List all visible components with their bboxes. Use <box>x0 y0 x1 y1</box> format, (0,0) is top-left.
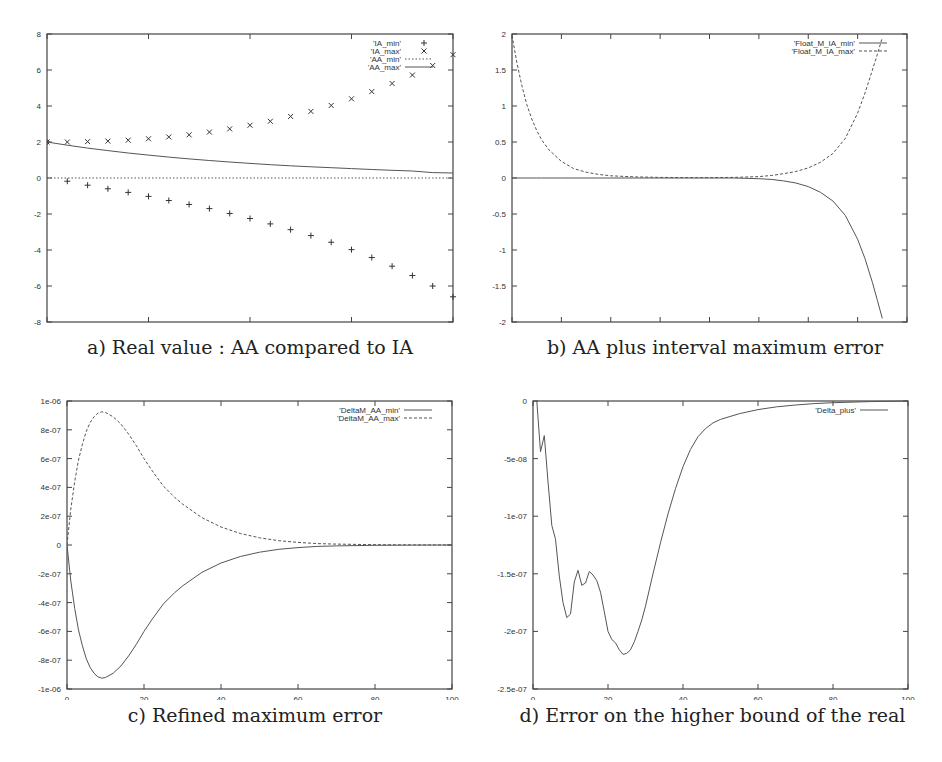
plot-frame <box>533 401 908 689</box>
legend-label: 'AA_max' <box>368 63 402 72</box>
marker-plus <box>85 182 91 188</box>
x-tick-label: 100 <box>752 328 766 330</box>
x-tick-label: 60 <box>656 328 665 330</box>
x-tick-label: 80 <box>829 695 838 700</box>
marker-plus <box>186 201 192 207</box>
series-group <box>67 412 452 678</box>
series-line <box>537 401 908 654</box>
marker-cross <box>288 114 293 119</box>
plot-c: 020406080100-1e-06-8e-07-6e-07-4e-07-2e-… <box>0 380 471 700</box>
x-tick-label: 0 <box>531 695 536 700</box>
marker-cross <box>85 139 90 144</box>
marker-plus <box>288 227 294 233</box>
y-tick-label: 0 <box>37 174 42 183</box>
marker-cross <box>410 73 415 78</box>
y-tick-label: 8 <box>37 30 42 39</box>
y-tick-label: 2 <box>37 138 42 147</box>
y-tick-label: 1e-06 <box>41 397 62 406</box>
series-group <box>512 35 882 318</box>
chart-panel-b: 020406080100120140160-2-1.5-1-0.500.511.… <box>471 0 942 330</box>
chart-panel-a: 05101520-8-6-4-202468'IA_min''IA_max''AA… <box>0 0 471 330</box>
x-tick-label: 40 <box>606 328 615 330</box>
x-tick-label: 5 <box>146 328 151 330</box>
y-tick-label: -1e-07 <box>504 512 528 521</box>
y-tick-label: 0 <box>502 174 507 183</box>
y-tick-label: 8e-07 <box>41 426 62 435</box>
marker-plus <box>105 186 111 192</box>
caption-b: b) AA plus interval maximum error <box>495 336 935 358</box>
marker-cross <box>369 89 374 94</box>
x-tick-label: 60 <box>294 695 303 700</box>
legend-label: 'Delta_plus' <box>815 406 856 415</box>
y-tick-label: 2 <box>502 30 507 39</box>
y-tick-label: -8 <box>34 318 42 327</box>
marker-cross <box>390 81 395 86</box>
y-tick-label: 1.5 <box>495 66 507 75</box>
marker-plus <box>450 294 456 300</box>
legend-label: 'Float_M_IA_max' <box>791 47 855 56</box>
x-tick-label: 20 <box>557 328 566 330</box>
x-tick-label: 0 <box>45 328 50 330</box>
y-tick-label: -2 <box>499 318 507 327</box>
marker-cross <box>126 138 131 143</box>
chart-panel-c: 020406080100-1e-06-8e-07-6e-07-4e-07-2e-… <box>0 380 471 700</box>
y-tick-label: -1.5e-07 <box>497 570 527 579</box>
marker-cross <box>146 136 151 141</box>
marker-cross <box>227 126 232 131</box>
y-tick-label: -6 <box>34 282 42 291</box>
series-line <box>67 412 452 545</box>
plot-a: 05101520-8-6-4-202468'IA_min''IA_max''AA… <box>0 0 471 330</box>
y-tick-label: -2 <box>34 210 42 219</box>
x-tick-label: 80 <box>371 695 380 700</box>
y-tick-label: 6e-07 <box>41 455 62 464</box>
y-tick-label: -2e-07 <box>38 570 62 579</box>
marker-plus <box>64 178 70 184</box>
x-tick-label: 15 <box>347 328 356 330</box>
x-tick-label: 0 <box>510 328 515 330</box>
y-tick-label: -0.5 <box>492 210 506 219</box>
y-tick-label: -1.5 <box>492 282 506 291</box>
marker-cross <box>166 134 171 139</box>
series-line <box>512 35 882 177</box>
marker-plus <box>267 221 273 227</box>
y-tick-label: 0 <box>523 397 528 406</box>
marker-cross <box>349 96 354 101</box>
marker-plus <box>206 206 212 212</box>
marker-plus <box>389 263 395 269</box>
legend-marker-plus <box>421 40 427 46</box>
y-tick-label: -1 <box>499 246 507 255</box>
legend-marker-cross <box>422 49 427 54</box>
y-tick-label: 0.5 <box>495 138 507 147</box>
x-tick-label: 160 <box>900 328 914 330</box>
marker-cross <box>268 119 273 124</box>
marker-plus <box>308 233 314 239</box>
y-tick-label: 1 <box>502 102 507 111</box>
caption-c: c) Refined maximum error <box>40 704 470 726</box>
series-line <box>47 142 453 173</box>
marker-cross <box>65 140 70 145</box>
y-tick-label: 4e-07 <box>41 483 62 492</box>
x-tick-label: 80 <box>705 328 714 330</box>
caption-d: d) Error on the higher bound of the real <box>490 704 935 726</box>
marker-plus <box>146 193 152 199</box>
y-tick-label: -5e-08 <box>504 455 528 464</box>
marker-plus <box>369 255 375 261</box>
marker-cross <box>248 123 253 128</box>
y-tick-label: 0 <box>57 541 62 550</box>
series-line <box>512 178 882 318</box>
y-tick-label: -2e-07 <box>504 627 528 636</box>
x-tick-label: 60 <box>754 695 763 700</box>
x-tick-label: 100 <box>445 695 459 700</box>
x-tick-label: 0 <box>65 695 70 700</box>
y-tick-label: -4 <box>34 246 42 255</box>
marker-cross <box>187 132 192 137</box>
plot-b: 020406080100120140160-2-1.5-1-0.500.511.… <box>471 0 942 330</box>
x-tick-label: 40 <box>217 695 226 700</box>
y-tick-label: 6 <box>37 66 42 75</box>
marker-plus <box>409 273 415 279</box>
y-tick-label: -4e-07 <box>38 599 62 608</box>
y-tick-label: -8e-07 <box>38 656 62 665</box>
chart-panel-d: 020406080100-2.5e-07-2e-07-1.5e-07-1e-07… <box>471 380 942 700</box>
legend-label: 'DeltaM_AA_max' <box>337 414 401 423</box>
y-tick-label: -2.5e-07 <box>497 685 527 694</box>
